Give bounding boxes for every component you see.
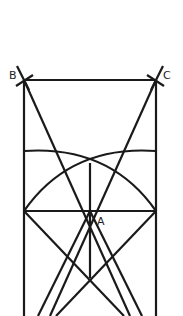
construction-diagram [0,0,183,316]
point-label-b: B [9,69,17,82]
line-right-mid-down [56,211,156,316]
line-a-left-down [38,211,90,316]
point-label-c: C [163,69,171,82]
point-label-a: A [97,215,105,228]
line-left-mid-down [24,211,124,316]
diagonal-c-down [50,80,156,316]
diagonal-b-down [24,80,130,316]
